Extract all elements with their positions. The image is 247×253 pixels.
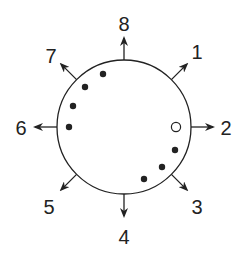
direction-label-2: 2 <box>220 117 231 139</box>
filled-dot <box>172 147 178 153</box>
direction-label-8: 8 <box>118 13 129 35</box>
direction-label-7: 7 <box>45 45 56 67</box>
filled-dot <box>141 176 147 182</box>
filled-dot <box>66 124 72 130</box>
direction-circle-diagram: 12345678 <box>0 0 247 253</box>
dots-group <box>66 71 181 182</box>
filled-dot <box>159 164 165 170</box>
filled-dot <box>100 71 106 77</box>
arrow-direction-3-icon <box>171 174 187 190</box>
arrow-direction-1-icon <box>171 64 187 80</box>
direction-label-4: 4 <box>118 226 129 248</box>
direction-label-5: 5 <box>43 196 54 218</box>
filled-dot <box>70 103 76 109</box>
arrow-direction-7-icon <box>61 64 77 80</box>
open-dot <box>171 122 180 131</box>
direction-arrows <box>35 38 213 216</box>
filled-dot <box>82 84 88 90</box>
direction-label-3: 3 <box>191 196 202 218</box>
direction-label-6: 6 <box>15 117 26 139</box>
arrow-direction-5-icon <box>61 174 77 190</box>
direction-label-1: 1 <box>191 41 202 63</box>
